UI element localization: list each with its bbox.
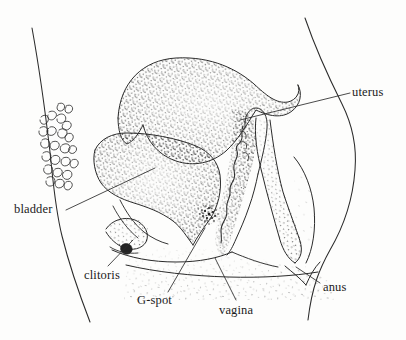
figure-canvas: uterus bladder clitoris G-spot vagina an… xyxy=(0,0,406,340)
label-uterus: uterus xyxy=(352,86,383,99)
label-anus: anus xyxy=(323,281,347,294)
label-bladder: bladder xyxy=(14,203,53,216)
label-gspot: G-spot xyxy=(137,294,172,307)
label-clitoris: clitoris xyxy=(84,269,120,282)
label-vagina: vagina xyxy=(219,304,253,317)
